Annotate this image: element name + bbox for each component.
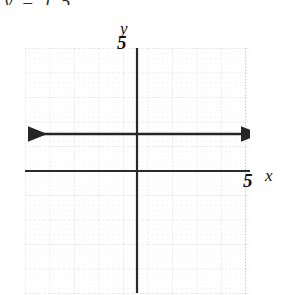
x-axis-tick-label-5: 5 xyxy=(243,170,253,192)
equation-fragment-text: y = 1.5 xyxy=(4,0,73,5)
graph-plot-area xyxy=(25,48,250,295)
y-axis-tick-label-5: 5 xyxy=(117,32,127,54)
graph-svg xyxy=(25,48,250,295)
x-axis-label: x xyxy=(265,166,273,186)
coordinate-plane-figure: y = 1.5 xyxy=(0,0,286,295)
